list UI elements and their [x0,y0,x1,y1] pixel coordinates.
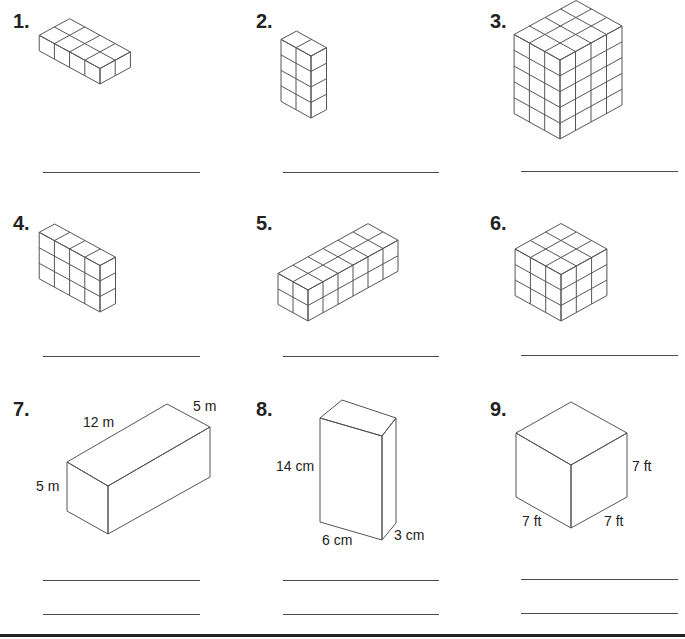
answer-line-9a[interactable] [521,579,678,580]
dimension-label-height: 7 ft [632,458,651,474]
answer-line-8b[interactable] [283,614,439,615]
cube-figure-9 [0,0,685,639]
page-bottom-rule [0,634,685,637]
answer-line-5[interactable] [283,356,439,357]
answer-line-4[interactable] [43,356,200,357]
dimension-label-left-edge: 7 ft [522,513,541,529]
answer-line-2[interactable] [283,172,439,173]
answer-line-3[interactable] [521,171,678,172]
answer-line-7b[interactable] [43,614,200,615]
answer-line-6[interactable] [521,355,678,356]
dimension-label-right-edge: 7 ft [604,513,623,529]
answer-line-1[interactable] [43,172,200,173]
answer-line-7a[interactable] [43,580,200,581]
answer-line-9b[interactable] [521,613,678,614]
answer-line-8a[interactable] [283,580,439,581]
